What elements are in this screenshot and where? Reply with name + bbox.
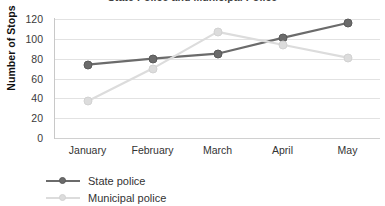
y-tick-label: 20 bbox=[7, 112, 43, 124]
plot-area: 020406080100120 bbox=[55, 19, 380, 138]
y-tick-label: 40 bbox=[7, 92, 43, 104]
data-point-marker bbox=[343, 18, 352, 27]
legend-swatch-icon bbox=[46, 175, 80, 187]
gridline bbox=[55, 138, 380, 139]
series-lines bbox=[55, 19, 380, 138]
chart-title: State Police and Municipal Police bbox=[0, 0, 385, 3]
legend-item[interactable]: Municipal police bbox=[46, 189, 166, 206]
line-chart: State Police and Municipal Police Number… bbox=[0, 0, 385, 206]
legend-label: Municipal police bbox=[88, 192, 166, 204]
data-point-marker bbox=[278, 40, 287, 49]
y-tick-label: 80 bbox=[7, 53, 43, 65]
legend-item[interactable]: State police bbox=[46, 172, 166, 189]
data-point-marker bbox=[213, 27, 222, 36]
data-point-marker bbox=[148, 64, 157, 73]
x-tick-label: January bbox=[69, 144, 106, 156]
x-tick-labels: JanuaryFebruaryMarchAprilMay bbox=[55, 144, 380, 160]
legend-swatch-icon bbox=[46, 192, 80, 204]
data-point-marker bbox=[213, 49, 222, 58]
y-tick-label: 120 bbox=[7, 13, 43, 25]
legend-label: State police bbox=[88, 175, 145, 187]
x-tick-label: April bbox=[272, 144, 293, 156]
y-tick-label: 100 bbox=[7, 33, 43, 45]
x-tick-label: May bbox=[338, 144, 358, 156]
data-point-marker bbox=[83, 97, 92, 106]
x-tick-label: February bbox=[131, 144, 173, 156]
data-point-marker bbox=[343, 53, 352, 62]
data-point-marker bbox=[83, 60, 92, 69]
y-tick-label: 0 bbox=[7, 132, 43, 144]
data-point-marker bbox=[148, 54, 157, 63]
x-tick-label: March bbox=[203, 144, 232, 156]
series-line bbox=[88, 32, 348, 101]
y-tick-label: 60 bbox=[7, 73, 43, 85]
chart-legend: State policeMunicipal police bbox=[46, 172, 166, 206]
